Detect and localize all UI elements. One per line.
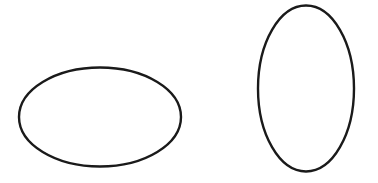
horizontal-ellipse [19,68,181,167]
drawing-canvas [0,0,378,183]
vertical-ellipse [258,6,354,172]
ellipse-drawing [0,0,378,183]
